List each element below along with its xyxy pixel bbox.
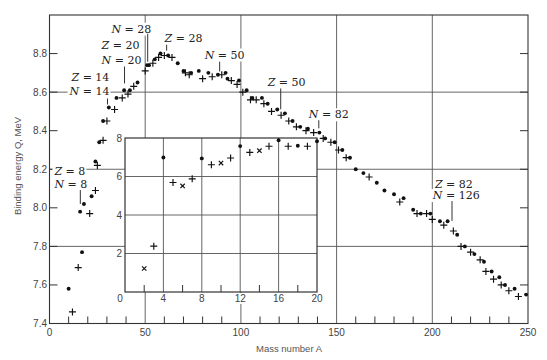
data-point-plus-marker xyxy=(440,222,447,229)
data-point-dot-marker xyxy=(90,194,94,198)
data-point-dot-marker xyxy=(136,81,140,85)
annotation-label: N = 20 xyxy=(101,54,142,67)
data-point-plus-marker xyxy=(413,210,420,217)
inset-x-tick-label: 20 xyxy=(311,293,323,304)
data-point-dot-marker xyxy=(490,269,494,273)
data-point-plus-marker xyxy=(482,268,489,275)
shell-closure-annotation: Z = 82N = 126 xyxy=(431,178,481,221)
y-axis-tick-label: 8.0 xyxy=(33,202,47,213)
annotation-label: Z = 8 xyxy=(53,165,85,178)
data-point-dot-marker xyxy=(497,275,501,279)
annotation-label: N = 28 xyxy=(111,23,152,36)
shell-closure-annotation: Z = 50 xyxy=(266,76,307,109)
inset-y-tick-label: 2 xyxy=(116,248,122,259)
data-point-plus-marker xyxy=(86,210,93,217)
data-point-dot-marker xyxy=(197,69,201,73)
data-point-dot-marker xyxy=(260,96,264,100)
data-point-plus-marker xyxy=(130,83,137,90)
data-point-plus-marker xyxy=(396,199,403,206)
annotation-label: Z = 20 xyxy=(101,39,140,52)
data-point-dot-marker xyxy=(402,196,406,200)
data-point-dot-marker xyxy=(82,202,86,206)
x-axis-tick-label: 0 xyxy=(47,327,53,338)
data-point-plus-marker xyxy=(103,118,110,125)
annotation-label: N = 8 xyxy=(53,178,87,191)
shell-closure-annotation: N = 82 xyxy=(307,108,350,128)
data-point-dot-marker xyxy=(161,155,165,159)
data-point-plus-marker xyxy=(327,139,334,146)
inset-y-tick-label: 4 xyxy=(116,210,122,221)
y-axis-tick-label: 7.8 xyxy=(33,241,47,252)
shell-closure-annotation: Z = 8N = 8 xyxy=(52,165,88,204)
data-point-plus-marker xyxy=(285,118,292,125)
annotation-label: Z = 14 xyxy=(71,71,110,84)
data-point-plus-marker xyxy=(490,276,497,283)
data-point-dot-marker xyxy=(122,88,126,92)
data-point-dot-marker xyxy=(513,287,517,291)
x-axis-tick-label: 200 xyxy=(424,327,441,338)
data-point-dot-marker xyxy=(446,219,450,223)
data-point-plus-marker xyxy=(515,293,522,300)
data-point-plus-marker xyxy=(366,173,373,180)
data-point-plus-marker xyxy=(310,129,317,136)
data-point-plus-marker xyxy=(142,67,149,74)
x-axis-tick-label: 100 xyxy=(233,327,250,338)
data-point-dot-marker xyxy=(296,144,300,148)
data-point-plus-marker xyxy=(423,210,430,217)
data-point-plus-marker xyxy=(199,75,206,82)
inset-y-tick-label: 6 xyxy=(116,171,122,182)
data-point-dot-marker xyxy=(383,189,387,193)
y-axis-tick-label: 8.8 xyxy=(33,48,47,59)
x-axis-tick-label: 250 xyxy=(520,327,537,338)
data-point-plus-marker xyxy=(320,135,327,142)
binding-energy-figure: 7.47.67.88.08.28.48.68.8050100150200250 … xyxy=(0,0,547,360)
data-point-dot-marker xyxy=(438,219,442,223)
inset-origin-label: 0 xyxy=(117,293,123,304)
annotation-label: Z = 50 xyxy=(267,76,306,89)
data-point-plus-marker xyxy=(111,106,118,113)
data-point-dot-marker xyxy=(275,108,279,112)
annotation-label: N = 126 xyxy=(432,189,480,202)
shell-closure-annotation: N = 50 xyxy=(203,49,246,72)
data-point-plus-marker xyxy=(69,308,76,315)
shell-closure-annotation: Z = 28 xyxy=(163,32,204,51)
annotation-label: N = 50 xyxy=(204,49,245,62)
inset-x-tick-label: 16 xyxy=(273,293,285,304)
data-point-dot-marker xyxy=(115,96,119,100)
inset-x-tick-label: 4 xyxy=(161,293,167,304)
y-axis-title: Binding energy Q, MeV xyxy=(12,116,23,215)
annotation-label: N = 82 xyxy=(308,108,349,121)
data-point-plus-marker xyxy=(293,123,300,130)
shell-closure-annotation: Z = 14N = 14 xyxy=(68,71,111,105)
y-axis-tick-label: 7.4 xyxy=(33,318,47,329)
data-point-plus-marker xyxy=(209,73,216,80)
data-point-plus-marker xyxy=(429,216,436,223)
data-point-dot-marker xyxy=(200,156,204,160)
data-point-plus-marker xyxy=(335,146,342,153)
data-point-dot-marker xyxy=(238,144,242,148)
y-axis-tick-label: 7.6 xyxy=(33,279,47,290)
data-point-plus-marker xyxy=(498,281,505,288)
data-point-plus-marker xyxy=(268,108,275,115)
y-axis-tick-label: 8.4 xyxy=(33,125,47,136)
inset-x-tick-label: 8 xyxy=(199,293,205,304)
y-axis-tick-label: 8.6 xyxy=(33,87,47,98)
annotation-label: N = 14 xyxy=(69,85,110,98)
inset-chart: 4812162024680 xyxy=(116,133,324,305)
data-point-dot-marker xyxy=(107,106,111,110)
x-axis-tick-label: 50 xyxy=(140,327,152,338)
data-point-plus-marker xyxy=(505,287,512,294)
data-point-dot-marker xyxy=(315,139,319,143)
data-point-plus-marker xyxy=(450,227,457,234)
data-point-dot-marker xyxy=(361,171,365,175)
data-point-dot-marker xyxy=(206,71,210,75)
data-point-dot-marker xyxy=(375,181,379,185)
data-point-plus-marker xyxy=(343,154,350,161)
data-point-plus-marker xyxy=(260,100,267,107)
y-axis-tick-label: 8.2 xyxy=(33,164,47,175)
binding-energy-chart: 7.47.67.88.08.28.48.68.8050100150200250 … xyxy=(0,0,547,360)
data-point-dot-marker xyxy=(354,167,358,171)
data-point-dot-marker xyxy=(455,233,459,237)
data-point-plus-marker xyxy=(75,264,82,271)
data-point-plus-marker xyxy=(119,94,126,101)
